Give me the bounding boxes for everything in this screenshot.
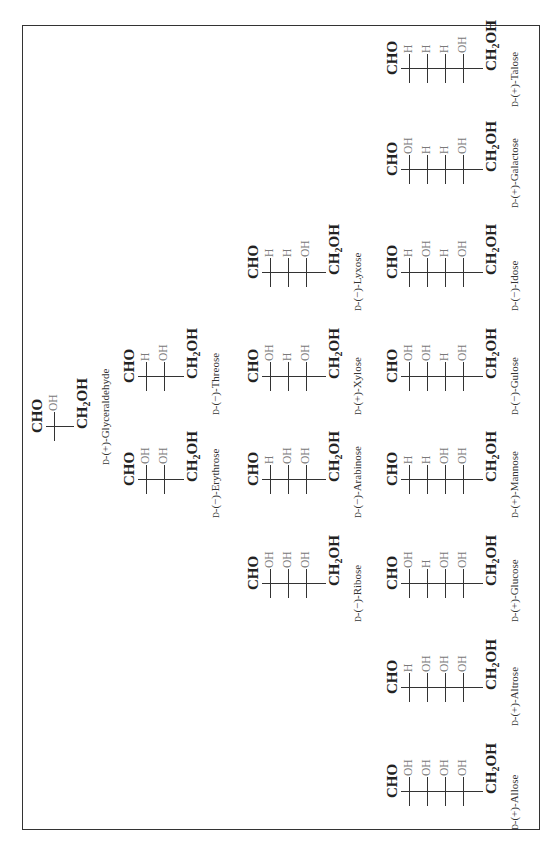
cho-group: CHO [385,660,400,694]
stereocenter-bond [270,569,271,598]
ch2oh-group: CH2OH [327,328,342,379]
cho-group: CHO [385,245,400,279]
backbone-line [401,169,483,170]
backbone-line [401,68,483,69]
sugar-name-label: D-(−)-Erythrose [210,449,221,518]
sugar-name-label: D-(−)-Arabinose [352,446,363,518]
stereocenter-bond [463,673,464,702]
stereocenter-bond [427,155,428,184]
stereocenter-bond [463,258,464,287]
stereocenter-bond [463,569,464,598]
cho-group: CHO [385,764,400,798]
backbone-line [262,272,326,273]
stereocenter-bond [427,258,428,287]
right-substituent: H [403,456,415,464]
stereocenter-bond [409,362,410,391]
right-substituent: OH [403,137,415,154]
ch2oh-group: CH2OH [484,431,499,482]
right-substituent: H [439,353,451,361]
ch2oh-group: CH2OH [484,328,499,379]
right-substituent: H [421,456,433,464]
stereocenter-bond [463,155,464,184]
sugar-name-label: D-(+)-Glucose [509,559,520,622]
right-substituent: OH [264,551,276,568]
right-substituent: OH [421,759,433,776]
sugar-name-label: D-(−)-Ribose [352,565,363,622]
stereocenter-bond [288,569,289,598]
sugar-name-label: D-(+)-Xylose [352,357,363,415]
right-substituent: OH [457,344,469,361]
right-substituent: OH [300,344,312,361]
backbone-line [262,583,326,584]
sugar-name-label: D-(+)-Allose [509,775,520,830]
stereocenter-bond [54,412,55,441]
right-substituent: OH [158,447,170,464]
right-substituent: H [421,45,433,53]
backbone-line [262,376,326,377]
cho-group: CHO [246,556,261,590]
stereocenter-bond [409,155,410,184]
right-substituent: H [439,146,451,154]
stereocenter-bond [463,777,464,806]
right-substituent: OH [403,344,415,361]
backbone-line [401,791,483,792]
stereocenter-bond [463,362,464,391]
stereocenter-bond [306,465,307,494]
right-substituent: H [403,45,415,53]
ch2oh-group: CH2OH [484,224,499,275]
ch2oh-group: CH2OH [185,431,200,482]
stereocenter-bond [306,362,307,391]
ch2oh-group: CH2OH [327,224,342,275]
right-substituent: OH [439,759,451,776]
right-substituent: OH [282,551,294,568]
right-substituent: H [264,249,276,257]
right-substituent: OH [457,36,469,53]
cho-group: CHO [246,245,261,279]
stereocenter-bond [427,569,428,598]
right-substituent: H [264,456,276,464]
right-substituent: OH [457,655,469,672]
sugar-name-label: D-(+)-Talose [509,52,520,107]
right-substituent: OH [403,759,415,776]
cho-group: CHO [385,349,400,383]
cho-group: CHO [246,349,261,383]
ch2oh-group: CH2OH [484,20,499,71]
backbone-line [401,479,483,480]
right-substituent: OH [140,447,152,464]
ch2oh-group: CH2OH [327,431,342,482]
stereocenter-bond [445,777,446,806]
stereocenter-bond [427,362,428,391]
stereocenter-bond [409,465,410,494]
ch2oh-group: CH2OH [75,378,90,429]
right-substituent: H [140,353,152,361]
stereocenter-bond [146,362,147,391]
right-substituent: H [421,560,433,568]
stereocenter-bond [445,465,446,494]
stereocenter-bond [427,54,428,83]
backbone-line [401,376,483,377]
right-substituent: OH [403,551,415,568]
ch2oh-group: CH2OH [484,743,499,794]
right-substituent: OH [158,344,170,361]
right-substituent: OH [300,551,312,568]
right-substituent: OH [457,759,469,776]
stereocenter-bond [445,673,446,702]
right-substituent: H [439,45,451,53]
stereocenter-bond [409,673,410,702]
right-substituent: H [439,249,451,257]
sugar-name-label: D-(+)-Mannose [509,451,520,518]
right-substituent: OH [457,551,469,568]
stereocenter-bond [288,362,289,391]
right-substituent: H [282,353,294,361]
right-substituent: H [421,146,433,154]
stereocenter-bond [270,362,271,391]
ch2oh-group: CH2OH [327,535,342,586]
backbone-line [138,376,184,377]
backbone-line [138,479,184,480]
right-substituent: H [403,664,415,672]
right-substituent: H [403,249,415,257]
cho-group: CHO [385,41,400,75]
right-substituent: OH [439,447,451,464]
stereocenter-bond [409,258,410,287]
backbone-line [401,687,483,688]
